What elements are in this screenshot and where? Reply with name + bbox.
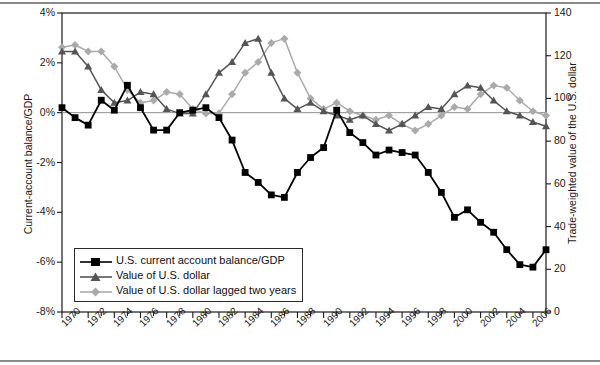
y-tick-right-0: 140 bbox=[554, 6, 594, 18]
legend-item-current-account: U.S. current account balance/GDP bbox=[80, 252, 296, 267]
legend-swatch-square-icon bbox=[80, 254, 112, 266]
y-tick-left-3: -2% bbox=[15, 156, 55, 168]
legend-swatch-triangle-icon bbox=[80, 269, 112, 281]
y-tick-right-7: 0 bbox=[554, 305, 594, 317]
legend-swatch-diamond-icon bbox=[80, 284, 112, 296]
y-tick-right-3: 80 bbox=[554, 134, 594, 146]
legend-item-dollar-value: Value of U.S. dollar bbox=[80, 267, 296, 282]
series-0 bbox=[59, 82, 550, 271]
y-tick-right-6: 20 bbox=[554, 262, 594, 274]
legend-label-dollar-value: Value of U.S. dollar bbox=[116, 269, 210, 281]
legend-label-current-account: U.S. current account balance/GDP bbox=[116, 254, 285, 266]
y-tick-left-2: 0% bbox=[15, 106, 55, 118]
series-2 bbox=[58, 35, 550, 135]
y-tick-left-5: -6% bbox=[15, 255, 55, 267]
y-tick-right-2: 100 bbox=[554, 91, 594, 103]
y-tick-right-1: 120 bbox=[554, 49, 594, 61]
y-tick-left-6: -8% bbox=[15, 305, 55, 317]
y-tick-right-5: 40 bbox=[554, 220, 594, 232]
y-tick-left-4: -4% bbox=[15, 205, 55, 217]
legend-label-dollar-lagged: Value of U.S. dollar lagged two years bbox=[116, 284, 296, 296]
legend-item-dollar-lagged: Value of U.S. dollar lagged two years bbox=[80, 282, 296, 297]
chart-figure: Current-account balance/GDP Trade-weight… bbox=[0, 0, 600, 365]
chart-plot-svg bbox=[0, 0, 600, 365]
y-tick-left-1: 2% bbox=[15, 56, 55, 68]
y-tick-left-0: 4% bbox=[15, 6, 55, 18]
chart-legend: U.S. current account balance/GDP Value o… bbox=[74, 248, 303, 302]
y-tick-right-4: 60 bbox=[554, 177, 594, 189]
